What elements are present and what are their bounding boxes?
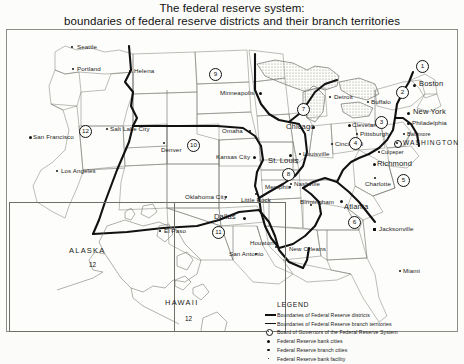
great-lakes (257, 60, 379, 122)
map-frame: Seattle Portland Helena Salt Lake City S… (6, 29, 458, 332)
city-label-houston: Houston (250, 240, 274, 247)
city-label-chicago: Chicago (286, 124, 315, 131)
page-title: The federal reserve system: boundaries o… (0, 2, 464, 28)
city-label-baltimore: Baltimore (407, 131, 431, 138)
city-label-detroit: Detroit (334, 94, 353, 101)
board-of-governors-icon (265, 329, 277, 336)
city-label-salt-lake-city: Salt Lake City (110, 126, 150, 132)
city-label-memphis: Memphis (265, 184, 291, 191)
city-label-minneapolis: Minneapolis (220, 90, 254, 97)
district-marker-7: 7 (297, 103, 310, 116)
city-label-san-francisco: San Francisco (33, 134, 74, 140)
district-marker-5: 5 (397, 174, 410, 187)
title-line-1: The federal reserve system: (0, 2, 464, 15)
los-angeles-text: Los Angeles (61, 167, 96, 174)
legend-label-3: Federal Reserve bank cities (277, 338, 343, 344)
inset-label-alaska: ALASKA (69, 248, 106, 255)
city-label-omaha: Omaha (222, 128, 243, 135)
branch-boundary-line-icon (265, 323, 277, 324)
city-label-louisville: Louisville (303, 151, 329, 158)
legend-item-branch-cities: Federal Reserve branch cities (265, 346, 415, 354)
city-label-nashville: Nashville (294, 181, 320, 188)
city-label-dallas: Dallas (214, 214, 236, 221)
legend-label-0: Boundaries of Federal Reserve districts (277, 312, 370, 318)
city-label-el-paso: El Paso (164, 228, 186, 235)
city-label-new-york: New York (413, 109, 446, 116)
district-marker-2: 2 (396, 86, 409, 99)
city-label-philadelphia: Philadelphia (412, 120, 447, 127)
inset-district-marker-hawaii: 12 (183, 314, 194, 325)
city-label-los-angeles: Los Angeles (61, 168, 96, 174)
district-marker-10: 10 (187, 139, 200, 152)
map-legend: LEGEND Boundaries of Federal Reserve dis… (265, 301, 415, 364)
district-marker-3: 3 (375, 116, 388, 129)
city-label-washington: WASHINGTON (403, 140, 459, 147)
district-marker-8: 8 (282, 168, 295, 181)
little-rock-text: Little Rock (241, 196, 271, 203)
city-label-oklahoma-city: Oklahoma City (185, 194, 227, 201)
legend-label-2: Board of Governors of the Federal Reserv… (277, 329, 398, 335)
district-marker-6: 6 (348, 216, 361, 229)
district-marker-12: 12 (79, 125, 92, 138)
city-label-kansas-city: Kansas City (216, 154, 250, 161)
city-label-charlotte: Charlotte (365, 181, 391, 188)
district-marker-1: 1 (416, 60, 429, 73)
district-marker-11: 11 (212, 226, 225, 239)
city-label-st-louis: St. Louis (268, 158, 298, 165)
city-label-pittsburgh: Pittsburgh (360, 131, 389, 138)
bank-city-dot-icon (265, 340, 277, 343)
legend-heading: LEGEND (277, 301, 415, 308)
city-label-little-rock: Little Rock (241, 197, 271, 203)
new-orleans-text: New Orleans (289, 245, 326, 252)
san-antonio-text: San Antonio (229, 250, 263, 257)
city-label-birmingham: Birmingham (300, 199, 334, 206)
city-label-jacksonville: Jacksonville (379, 226, 414, 233)
city-label-portland: Portland (77, 66, 101, 73)
legend-item-bank-facility: Federal Reserve bank facility (265, 355, 415, 363)
legend-item-branch-boundaries: Boundaries of Federal Reserve branch ter… (265, 320, 415, 328)
city-label-boston: Boston (419, 81, 443, 88)
legend-label-1: Boundaries of Federal Reserve branch ter… (277, 321, 392, 327)
district-boundary-line-icon (265, 314, 277, 316)
city-label-helena: Helena (134, 68, 154, 75)
city-label-richmond: Richmond (377, 161, 412, 168)
city-label-buffalo: Buffalo (371, 99, 391, 106)
inset-district-marker-alaska: 12 (87, 260, 98, 271)
city-label-culpeper: Culpeper (381, 149, 404, 156)
city-label-denver: Denver (161, 147, 182, 154)
city-label-miami: Miami (403, 268, 420, 275)
board-of-governors-marker (394, 140, 402, 148)
legend-item-district-boundaries: Boundaries of Federal Reserve districts (265, 311, 415, 319)
city-dot-culpeper (378, 151, 380, 153)
salt-lake-city-text: Salt Lake City (110, 125, 150, 132)
bank-facility-dot-icon (265, 358, 277, 359)
legend-item-bank-cities: Federal Reserve bank cities (265, 337, 415, 345)
city-label-atlanta: Atlanta (344, 204, 368, 211)
city-label-seattle: Seattle (77, 44, 97, 51)
city-dot-jacksonville (373, 228, 376, 231)
legend-label-4: Federal Reserve branch cities (277, 347, 347, 353)
district-marker-4: 4 (349, 137, 362, 150)
inset-label-hawaii: HAWAII (165, 300, 199, 307)
san-francisco-text: San Francisco (33, 133, 74, 140)
city-dot-helena (129, 70, 131, 72)
city-label-san-antonio: San Antonio (229, 251, 263, 257)
legend-item-board-of-governors: Board of Governors of the Federal Reserv… (265, 329, 415, 337)
legend-label-5: Federal Reserve bank facility (277, 356, 345, 362)
district-marker-9: 9 (209, 68, 222, 81)
title-line-2: boundaries of federal reserve districts … (0, 15, 464, 28)
branch-city-dot-icon (265, 349, 277, 351)
